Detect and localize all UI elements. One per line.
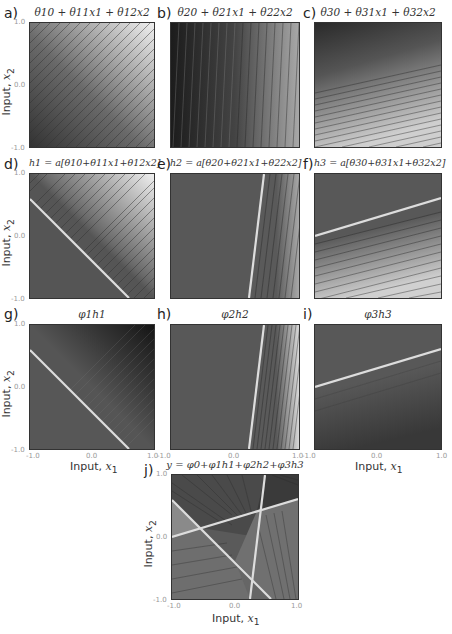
panel-title-e: h2 = a[θ20+θ21x1+θ22x2] bbox=[170, 157, 300, 168]
panel-g-plot bbox=[29, 324, 155, 450]
panel-letter-f: f) bbox=[303, 156, 313, 172]
panel-title-f: h3 = a[θ30+θ31x1+θ32x2] bbox=[314, 157, 442, 168]
ytick-mid-d: 0.0 bbox=[14, 232, 25, 240]
ylabel-row3: Input, x2 bbox=[0, 358, 15, 418]
xlabel-j: Input, x1 bbox=[212, 612, 260, 627]
xlabel-i: Input, x1 bbox=[355, 460, 403, 475]
xtick-min-j: -1.0 bbox=[167, 602, 181, 610]
ytick-max-a: 1.0 bbox=[14, 18, 25, 26]
ylabel-row1: Input, x2 bbox=[0, 56, 15, 116]
ytick-max-g: 1.0 bbox=[14, 320, 25, 328]
panel-title-j: y = φ0+φ1h1+φ2h2+φ3h3 bbox=[160, 459, 310, 470]
panel-d-plot bbox=[29, 173, 155, 299]
ytick-mid-a: 0.0 bbox=[14, 81, 25, 89]
panel-title-b: θ20 + θ21x1 + θ22x2 bbox=[170, 6, 300, 18]
panel-c-plot bbox=[314, 22, 442, 148]
ytick-min-g: -1.0 bbox=[11, 446, 25, 454]
panel-title-a: θ10 + θ11x1 + θ12x2 bbox=[29, 6, 155, 18]
xtick-mid-g: 0.0 bbox=[86, 452, 97, 460]
panel-title-i: φ3h3 bbox=[314, 308, 442, 320]
panel-letter-e: e) bbox=[157, 156, 171, 172]
panel-b-plot bbox=[170, 22, 300, 148]
panel-e-plot bbox=[170, 173, 300, 299]
ylabel-row2: Input, x2 bbox=[0, 207, 15, 267]
panel-j-plot bbox=[171, 474, 299, 600]
ytick-mid-g: 0.0 bbox=[14, 383, 25, 391]
ylabel-j: Input, x2 bbox=[142, 508, 157, 568]
xtick-mid-j: 0.0 bbox=[229, 602, 240, 610]
panel-i-plot bbox=[314, 324, 442, 450]
ytick-max-j: 1.0 bbox=[156, 470, 167, 478]
ytick-max-d: 1.0 bbox=[14, 169, 25, 177]
ytick-min-d: -1.0 bbox=[11, 295, 25, 303]
panel-title-h: φ2h2 bbox=[170, 308, 300, 320]
panel-letter-j: j) bbox=[144, 462, 153, 478]
xtick-max-i: 1.0 bbox=[436, 452, 447, 460]
panel-title-g: φ1h1 bbox=[29, 308, 155, 320]
panel-f-plot bbox=[314, 173, 442, 299]
panel-title-c: θ30 + θ31x1 + θ32x2 bbox=[314, 6, 442, 18]
xtick-min-g: -1.0 bbox=[26, 452, 40, 460]
panel-letter-i: i) bbox=[303, 306, 312, 322]
xlabel-g: Input, x1 bbox=[70, 460, 118, 475]
ytick-min-j: -1.0 bbox=[153, 596, 167, 604]
panel-h-plot bbox=[170, 324, 300, 450]
panel-a-plot bbox=[29, 22, 155, 148]
ytick-mid-j: 0.0 bbox=[156, 533, 167, 541]
ytick-min-a: -1.0 bbox=[11, 144, 25, 152]
panel-title-d: h1 = a[θ10+θ11x1+θ12x2] bbox=[29, 157, 155, 168]
xtick-mid-i: 0.0 bbox=[371, 452, 382, 460]
xtick-max-j: 1.0 bbox=[291, 602, 302, 610]
